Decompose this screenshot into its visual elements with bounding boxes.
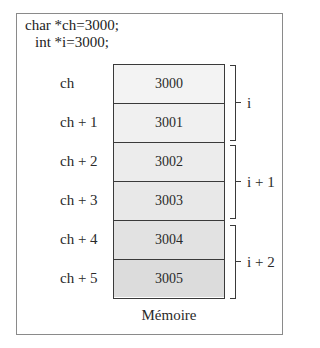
memory-caption: Mémoire	[113, 307, 225, 324]
bracket-tick-i-2	[236, 261, 241, 262]
int-pointer-label-i: i	[247, 95, 251, 111]
memory-address: 3001	[155, 115, 183, 131]
pointer-label-ch-3: ch + 3	[60, 192, 110, 208]
code-line-char-pointer: char *ch=3000;	[25, 17, 119, 34]
memory-cell-3004: 3004	[114, 221, 224, 260]
pointer-label-ch-1: ch + 1	[60, 114, 110, 130]
bracket-int-i-1	[230, 145, 236, 219]
memory-cell-3002: 3002	[114, 143, 224, 182]
bracket-int-i	[230, 65, 236, 141]
pointer-label-ch: ch	[60, 75, 110, 91]
pointer-label-ch-5: ch + 5	[60, 270, 110, 286]
memory-column: 3000 3001 3002 3003 3004 3005	[113, 64, 225, 299]
memory-cell-3003: 3003	[114, 182, 224, 221]
memory-address: 3004	[155, 232, 183, 248]
code-snippet: char *ch=3000; int *i=3000;	[25, 17, 119, 51]
memory-cell-3000: 3000	[114, 65, 224, 104]
bracket-int-i-2	[230, 225, 236, 299]
code-line-int-pointer: int *i=3000;	[25, 34, 119, 51]
pointer-label-ch-2: ch + 2	[60, 153, 110, 169]
memory-address: 3005	[155, 271, 183, 287]
bracket-tick-i-1	[236, 181, 241, 182]
memory-cell-3005: 3005	[114, 260, 224, 297]
memory-cell-3001: 3001	[114, 104, 224, 143]
bracket-tick-i	[236, 102, 241, 103]
int-pointer-label-i-1: i + 1	[247, 174, 275, 190]
memory-address: 3002	[155, 154, 183, 170]
memory-address: 3000	[155, 76, 183, 92]
memory-address: 3003	[155, 193, 183, 209]
int-pointer-label-i-2: i + 2	[247, 254, 275, 270]
pointer-label-ch-4: ch + 4	[60, 231, 110, 247]
